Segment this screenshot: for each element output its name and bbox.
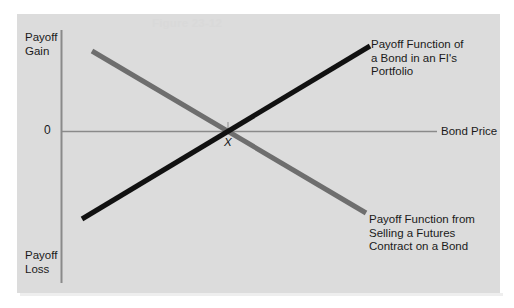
legend-bond-payoff-line1: Payoff Function of <box>371 38 463 52</box>
y-axis-top-label: Payoff Gain <box>25 31 57 58</box>
legend-bond-payoff: Payoff Function of a Bond in an FI's Por… <box>371 38 463 79</box>
y-axis-bottom-label-line1: Payoff <box>25 249 57 263</box>
legend-futures-payoff-line3: Contract on a Bond <box>369 240 475 254</box>
legend-bond-payoff-line3: Portfolio <box>371 65 463 79</box>
x-axis-label: Bond Price <box>441 125 497 139</box>
intersection-label: X <box>224 136 232 150</box>
legend-bond-payoff-line2: a Bond in an FI's <box>371 52 463 66</box>
origin-label: 0 <box>44 124 51 138</box>
legend-futures-payoff: Payoff Function from Selling a Futures C… <box>369 213 475 254</box>
y-axis-bottom-label-line2: Loss <box>25 263 57 277</box>
figure-root: Figure 23-12 Payoff Gain Payoff Loss 0 B… <box>0 0 514 308</box>
y-axis-bottom-label: Payoff Loss <box>25 249 57 276</box>
legend-futures-payoff-line2: Selling a Futures <box>369 227 475 241</box>
legend-futures-payoff-line1: Payoff Function from <box>369 213 475 227</box>
y-axis-top-label-line1: Payoff <box>25 31 57 45</box>
y-axis-top-label-line2: Gain <box>25 45 57 59</box>
